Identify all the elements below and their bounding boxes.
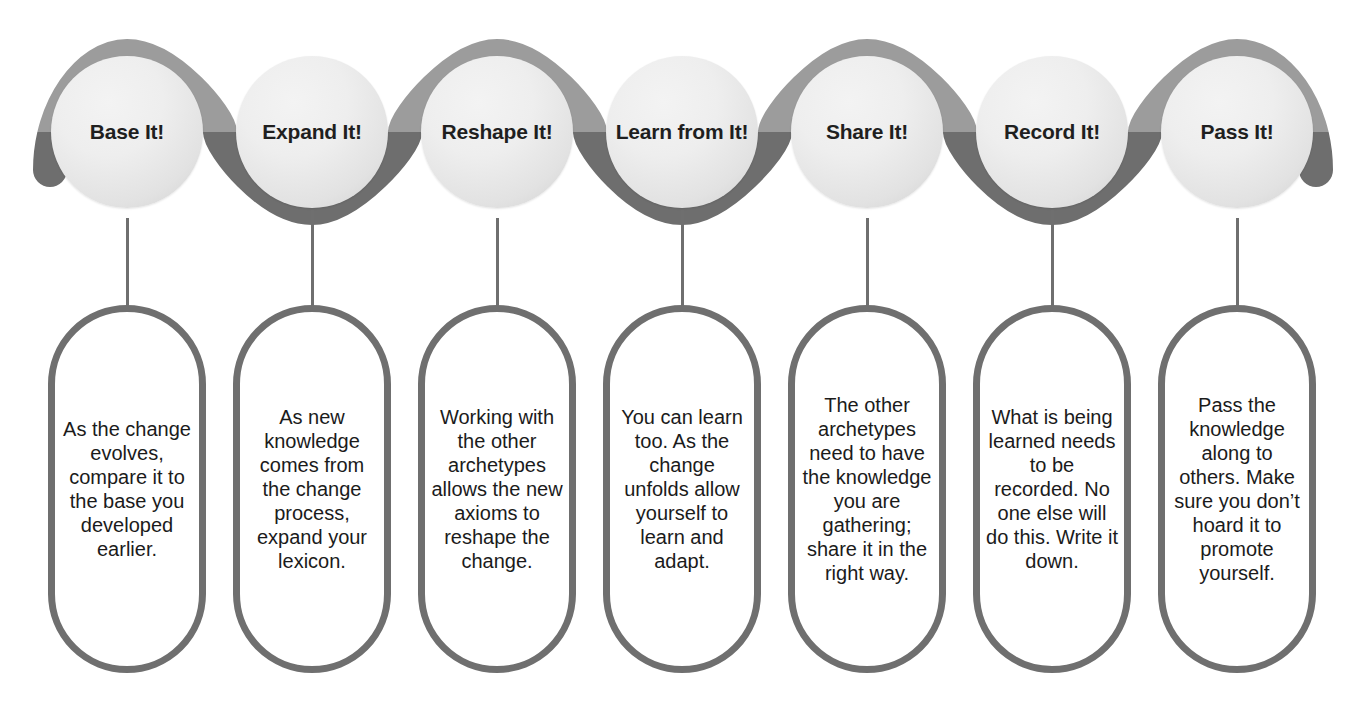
step-card-pass-it[interactable]: Pass the knowledge along to others. Make… [1158, 305, 1316, 673]
step-card-record-it[interactable]: What is being learned needs to be record… [973, 305, 1131, 673]
step-circle-record-it[interactable]: Record It! [976, 56, 1128, 208]
diagram-canvas: Base It! Expand It! Reshape It! Learn fr… [0, 0, 1371, 724]
step-card-reshape-it[interactable]: Working with the other archetypes allows… [418, 305, 576, 673]
step-card-expand-it[interactable]: As new knowledge comes from the change p… [233, 305, 391, 673]
step-card-text: As the change evolves, compare it to the… [55, 417, 199, 561]
step-circle-reshape-it[interactable]: Reshape It! [421, 56, 573, 208]
step-circle-share-it[interactable]: Share It! [791, 56, 943, 208]
step-card-text: Working with the other archetypes allows… [425, 405, 569, 573]
step-card-text: You can learn too. As the change unfolds… [610, 405, 754, 573]
step-card-text: Pass the knowledge along to others. Make… [1165, 393, 1309, 585]
step-circle-label: Base It! [82, 120, 172, 144]
connector-stem-pass-it [1236, 218, 1239, 310]
step-card-text: The other archetypes need to have the kn… [795, 393, 939, 585]
step-circle-base-it[interactable]: Base It! [51, 56, 203, 208]
step-card-share-it[interactable]: The other archetypes need to have the kn… [788, 305, 946, 673]
step-card-learn-from-it[interactable]: You can learn too. As the change unfolds… [603, 305, 761, 673]
step-circle-learn-from-it[interactable]: Learn from It! [606, 56, 758, 208]
connector-stem-share-it [866, 218, 869, 310]
connector-stem-reshape-it [496, 218, 499, 310]
connector-stem-record-it [1051, 210, 1054, 310]
step-circle-label: Learn from It! [608, 120, 757, 144]
step-card-text: As new knowledge comes from the change p… [240, 405, 384, 573]
step-circle-label: Share It! [818, 120, 916, 144]
connector-stem-expand-it [311, 210, 314, 310]
step-circle-label: Record It! [996, 120, 1108, 144]
step-circle-pass-it[interactable]: Pass It! [1161, 56, 1313, 208]
connector-stem-base-it [126, 218, 129, 310]
connector-stem-learn-from-it [681, 210, 684, 310]
step-circle-expand-it[interactable]: Expand It! [236, 56, 388, 208]
step-circle-label: Expand It! [254, 120, 370, 144]
step-circle-label: Pass It! [1192, 120, 1281, 144]
step-card-base-it[interactable]: As the change evolves, compare it to the… [48, 305, 206, 673]
step-circle-label: Reshape It! [434, 120, 561, 144]
step-card-text: What is being learned needs to be record… [980, 405, 1124, 573]
